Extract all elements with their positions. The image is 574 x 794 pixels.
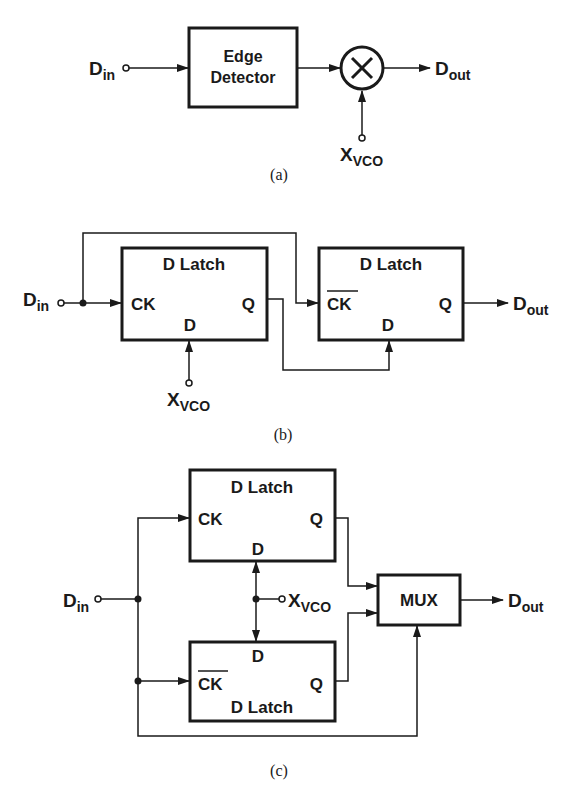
latch1-d-pin: D	[184, 316, 196, 335]
latch-bottom-d-pin: D	[252, 647, 264, 666]
latch2-title: D Latch	[360, 255, 422, 274]
vco-terminal-b	[186, 380, 192, 386]
edge-detector-label-1: Edge	[223, 48, 262, 65]
dout-label-a: Dout	[435, 58, 471, 83]
latch2-ckbar-pin: CK	[327, 295, 352, 314]
latch1-ck-pin: CK	[131, 295, 156, 314]
dout-label-c: Dout	[508, 590, 544, 615]
vco-label-c: XVCO	[288, 590, 331, 615]
wire-din-to-top-ck	[138, 518, 189, 599]
din-label-c: Din	[63, 590, 89, 615]
latch-top-title: D Latch	[231, 478, 293, 497]
latch-top-d-pin: D	[252, 540, 264, 559]
vco-terminal-a	[359, 135, 365, 141]
caption-c: (c)	[270, 762, 288, 780]
din-terminal-a	[123, 65, 129, 71]
edge-detector-block	[189, 28, 297, 107]
vco-label-a: XVCO	[340, 144, 383, 169]
din-label-a: Din	[89, 58, 115, 83]
caption-b: (b)	[274, 426, 293, 444]
vco-terminal-c	[279, 596, 285, 602]
edge-detector-label-2: Detector	[211, 69, 276, 86]
diagram-a: Din Edge Detector XVCO Dout (a)	[89, 28, 471, 184]
dout-label-b: Dout	[513, 293, 549, 318]
mixer-icon	[341, 47, 383, 89]
wire-bottom-q-to-mux	[335, 613, 377, 681]
latch-top-q-pin: Q	[310, 510, 323, 529]
diagram-b: Din D Latch CK D Q XVCO D Latch CK D Q D…	[23, 233, 549, 444]
mux-label: MUX	[400, 591, 438, 610]
latch2-d-pin: D	[382, 316, 394, 335]
din-label-b: Din	[23, 289, 49, 314]
latch-bottom-ckbar-pin: CK	[198, 675, 223, 694]
latch-top-ck-pin: CK	[198, 510, 223, 529]
clock-recovery-diagrams: Din Edge Detector XVCO Dout (a) Din D La…	[0, 0, 574, 794]
latch-bottom-q-pin: Q	[310, 675, 323, 694]
latch-bottom-title: D Latch	[231, 698, 293, 717]
latch2-q-pin: Q	[439, 295, 452, 314]
din-terminal-b	[58, 300, 64, 306]
caption-a: (a)	[270, 166, 288, 184]
latch1-title: D Latch	[163, 255, 225, 274]
latch1-q-pin: Q	[242, 295, 255, 314]
vco-label-b: XVCO	[167, 389, 210, 414]
din-terminal-c	[95, 596, 101, 602]
diagram-c: D Latch CK D Q D CK Q D Latch MUX Din XV…	[63, 470, 544, 780]
wire-top-q-to-mux	[335, 518, 377, 586]
